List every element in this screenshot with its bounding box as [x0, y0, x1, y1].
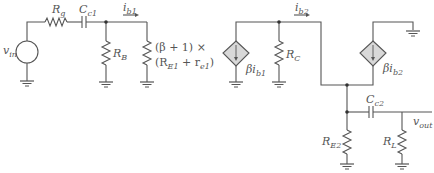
- resistor-rg-icon: [45, 18, 67, 26]
- cc2-label: Cc2: [366, 94, 384, 108]
- reflected-label-line1: (β + 1) ×: [155, 42, 206, 53]
- source-label: vin: [3, 45, 17, 59]
- re2-label: RE2: [322, 136, 341, 150]
- ib1-label: ib1: [123, 2, 137, 16]
- left-circuit: [16, 15, 151, 82]
- vout-label: vout: [413, 116, 432, 130]
- voltage-source-icon: [16, 41, 38, 63]
- cc1-label: Cc1: [79, 4, 97, 18]
- ib2-label: ib2: [295, 2, 309, 16]
- rg-label: Rg: [52, 4, 65, 18]
- reflected-label-line2: (RE1 + re1): [155, 57, 214, 71]
- resistor-reflected-icon: [143, 41, 151, 65]
- rc-label: RC: [286, 49, 300, 63]
- wire: [27, 22, 45, 41]
- resistor-rb-icon: [102, 41, 110, 65]
- resistor-re2-icon: [343, 130, 351, 154]
- resistor-rc-icon: [275, 41, 283, 65]
- rb-label: RB: [113, 48, 127, 62]
- dep-source1-label: βib1: [246, 64, 266, 78]
- rl-label: RL: [383, 136, 397, 150]
- resistor-rl-icon: [398, 130, 406, 154]
- circuit-diagram: [0, 0, 434, 173]
- dep-source2-label: βib2: [383, 63, 403, 77]
